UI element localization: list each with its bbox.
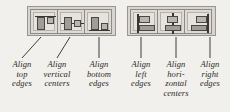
caption-align-bottom-edges: Align bottom edges: [79, 60, 119, 89]
caption-align-top-edges: Align top edges: [2, 60, 42, 89]
caption-align-left-edges: Align left edges: [121, 60, 161, 89]
caption-line: centers: [37, 79, 77, 89]
caption-line: centers: [156, 89, 196, 99]
caption-line: edges: [121, 79, 161, 89]
caption-align-vertical-centers: Align vertical centers: [37, 60, 77, 89]
caption-line: edges: [79, 79, 119, 89]
leader-line-align-vertical-centers: [57, 37, 70, 58]
leader-line-align-top-edges: [22, 37, 41, 58]
align-toolbar-figure: Align top edges Align vertical centers A…: [0, 0, 230, 112]
caption-align-right-edges: Align right edges: [190, 60, 230, 89]
caption-line: edges: [2, 79, 42, 89]
caption-line: edges: [190, 79, 230, 89]
